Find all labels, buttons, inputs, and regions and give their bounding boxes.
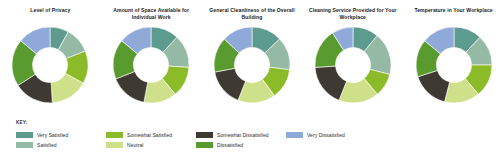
legend-swatch xyxy=(196,132,213,138)
legend-swatch xyxy=(106,142,123,148)
donut-svg xyxy=(314,26,392,104)
donut-svg xyxy=(11,26,89,104)
donut-chart-1 xyxy=(112,26,190,104)
legend-item: Very Satisfied xyxy=(16,130,106,140)
legend-item: Very Dissatisfied xyxy=(286,130,376,140)
chart-cell-3: Cleaning Service Provided for Your Workp… xyxy=(302,0,403,118)
chart-title-2: General Cleanliness of the Overall Build… xyxy=(206,7,298,23)
chart-title-4: Temperature in Your Workplace xyxy=(408,7,500,23)
donut-chart-0 xyxy=(11,26,89,104)
legend-item: Somewhat Dissatisfied xyxy=(196,130,286,140)
legend-label: Dissatisfied xyxy=(217,142,243,148)
legend-label: Somewhat Satisfied xyxy=(127,132,172,138)
donut-chart-3 xyxy=(314,26,392,104)
legend-swatch xyxy=(286,132,303,138)
donut-chart-4 xyxy=(415,26,493,104)
chart-cell-4: Temperature in Your Workplace xyxy=(403,0,504,118)
chart-cell-1: Amount of Space Available for Individual… xyxy=(101,0,202,118)
legend-item: Somewhat Satisfied xyxy=(106,130,196,140)
donut-charts-row: Level of Privacy Amount of Space Availab… xyxy=(0,0,504,118)
legend-swatch xyxy=(106,132,123,138)
chart-cell-2: General Cleanliness of the Overall Build… xyxy=(202,0,303,118)
legend-label: Very Satisfied xyxy=(37,132,68,138)
donut-svg xyxy=(112,26,190,104)
donut-svg xyxy=(415,26,493,104)
donut-svg xyxy=(213,26,291,104)
chart-title-3: Cleaning Service Provided for Your Workp… xyxy=(307,7,399,23)
chart-title-1: Amount of Space Available for Individual… xyxy=(105,7,197,23)
legend-label: Neutral xyxy=(127,142,143,148)
key-label: KEY: xyxy=(16,120,27,125)
legend-swatch xyxy=(16,132,33,138)
legend-swatch xyxy=(196,142,213,148)
legend-label: Satisfied xyxy=(37,142,57,148)
legend-item: Neutral xyxy=(106,140,196,150)
donut-chart-2 xyxy=(213,26,291,104)
legend-label: Somewhat Dissatisfied xyxy=(217,132,269,138)
chart-legend: Very SatisfiedSatisfiedSomewhat Satisfie… xyxy=(16,130,496,154)
chart-title-0: Level of Privacy xyxy=(4,7,96,23)
legend-label: Very Dissatisfied xyxy=(307,132,345,138)
chart-cell-0: Level of Privacy xyxy=(0,0,101,118)
legend-item: Satisfied xyxy=(16,140,106,150)
legend-swatch xyxy=(16,142,33,148)
legend-item: Dissatisfied xyxy=(196,140,286,150)
